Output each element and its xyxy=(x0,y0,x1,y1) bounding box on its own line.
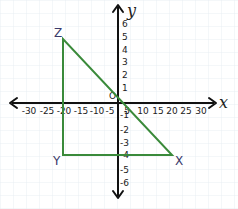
y-tick: -1 xyxy=(120,110,129,120)
coordinate-plane: x y -30 -25 -20 -15 -10 -5 5 10 15 20 25… xyxy=(0,0,238,209)
x-tick: -25 xyxy=(40,106,55,116)
x-axis-label: x xyxy=(219,93,228,112)
y-tick: -6 xyxy=(120,178,129,188)
y-tick: 4 xyxy=(122,45,128,55)
x-tick: 20 xyxy=(166,106,178,116)
x-tick: 10 xyxy=(137,106,149,116)
vertex-label-z: Z xyxy=(54,26,62,40)
y-tick: 1 xyxy=(122,83,128,93)
y-tick: -2 xyxy=(120,125,129,135)
y-tick: 6 xyxy=(122,19,128,29)
x-tick: 15 xyxy=(152,106,163,116)
vertex-label-y: Y xyxy=(52,154,61,168)
y-axis-label: y xyxy=(126,1,137,20)
x-tick: 25 xyxy=(180,106,191,116)
x-tick: -20 xyxy=(57,106,72,116)
x-tick: -15 xyxy=(74,106,89,116)
y-tick: 3 xyxy=(122,57,128,67)
x-tick: 30 xyxy=(195,106,207,116)
vertex-label-x: X xyxy=(175,154,183,168)
x-tick: -10 xyxy=(90,106,105,116)
x-tick: -30 xyxy=(22,106,37,116)
x-tick: -5 xyxy=(106,106,115,116)
y-tick: -3 xyxy=(120,138,129,148)
y-tick: 2 xyxy=(122,70,128,80)
y-tick: 5 xyxy=(122,32,128,42)
y-tick: -5 xyxy=(120,165,129,175)
